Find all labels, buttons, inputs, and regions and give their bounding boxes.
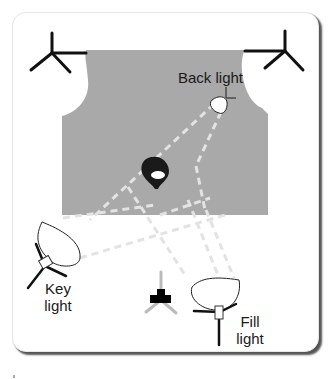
- back-light-label: Back light: [178, 69, 243, 86]
- left-background-stand: [31, 33, 86, 72]
- key-light-label-line1: Key: [36, 280, 80, 297]
- lighting-diagram: [0, 0, 336, 379]
- right-background-stand: [245, 31, 303, 70]
- camera: [146, 272, 176, 313]
- fill-light-label-line1: Fill: [230, 313, 270, 330]
- key-light: [28, 222, 80, 288]
- fill-light-label-line2: light: [230, 330, 270, 347]
- key-light-label-line2: light: [36, 297, 80, 314]
- key-light-label: Key light: [36, 280, 80, 314]
- fill-light-label: Fill light: [230, 313, 270, 347]
